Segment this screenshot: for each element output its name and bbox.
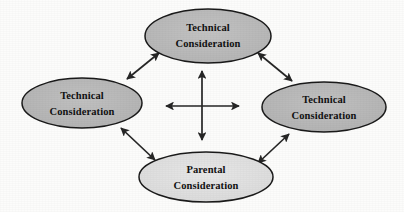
node-left-label-line1: Technical bbox=[60, 90, 104, 101]
node-top-label-line2: Consideration bbox=[176, 38, 241, 49]
node-top-label-line1: Technical bbox=[186, 22, 230, 33]
connector-bottom-left-diagonal bbox=[121, 128, 155, 160]
node-left-ellipse bbox=[22, 78, 142, 128]
diagram-canvas: Technical Consideration Technical Consid… bbox=[0, 0, 404, 212]
node-bottom-label-line1: Parental bbox=[186, 164, 225, 175]
connector-bottom-right-diagonal bbox=[258, 134, 289, 163]
node-bottom-ellipse bbox=[139, 152, 273, 202]
connector-top-left-diagonal bbox=[127, 53, 159, 79]
node-right-label-line2: Consideration bbox=[292, 110, 357, 121]
node-bottom[interactable]: Parental Consideration bbox=[139, 152, 273, 202]
node-right[interactable]: Technical Consideration bbox=[262, 82, 386, 132]
node-bottom-label-line2: Consideration bbox=[174, 180, 239, 191]
node-left[interactable]: Technical Consideration bbox=[22, 78, 142, 128]
node-top-ellipse bbox=[145, 9, 271, 63]
node-left-label-line2: Consideration bbox=[50, 106, 115, 117]
diagram-svg: Technical Consideration Technical Consid… bbox=[0, 0, 404, 212]
node-right-label-line1: Technical bbox=[302, 94, 346, 105]
connector-top-right-diagonal bbox=[258, 53, 292, 81]
node-top[interactable]: Technical Consideration bbox=[145, 9, 271, 63]
node-right-ellipse bbox=[262, 82, 386, 132]
